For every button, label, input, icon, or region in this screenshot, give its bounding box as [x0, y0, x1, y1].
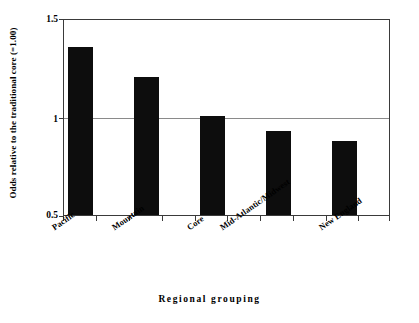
y-tick-label-0-5: 0.5	[32, 210, 58, 220]
y-axis-title: Odds relative to the traditional core (=…	[8, 8, 18, 218]
x-tick-mark-6	[260, 216, 261, 221]
bar-mid-atlantic-midwest	[266, 131, 291, 215]
x-tick-mark-3	[162, 216, 163, 221]
x-axis-title: Regional grouping	[0, 294, 419, 304]
y-axis-tick-labels: 1.5 1 0.5	[28, 0, 58, 240]
plot-inner	[64, 20, 389, 215]
x-tick-mark-10	[389, 216, 390, 221]
chart-figure: Odds relative to the traditional core (=…	[0, 0, 419, 323]
x-tick-mark-9	[358, 216, 359, 221]
y-axis-title-container: Odds relative to the traditional core (=…	[0, 0, 26, 240]
bar-pacific	[68, 47, 93, 215]
reference-gridline-1-00	[64, 118, 389, 119]
y-tick-label-1: 1	[32, 114, 58, 124]
plot-area	[63, 19, 390, 216]
x-tick-mark-1	[96, 216, 97, 221]
x-category-label-core: Core	[185, 214, 206, 233]
bar-core	[200, 116, 225, 215]
bar-mountain	[134, 77, 159, 215]
x-tick-mark-7	[293, 216, 294, 221]
y-tick-label-1-5: 1.5	[32, 14, 58, 24]
